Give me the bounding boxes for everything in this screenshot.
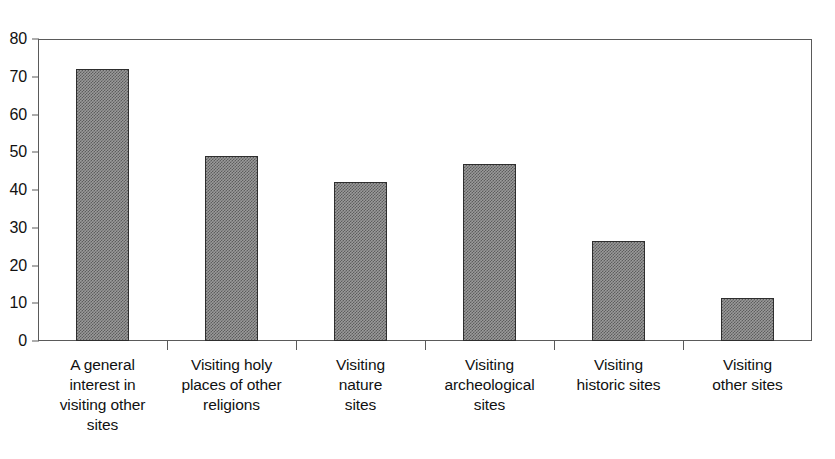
x-axis-category-label-line: Visiting <box>683 355 812 375</box>
x-axis-tick-mark <box>425 341 426 350</box>
x-axis-category-label-line: sites <box>296 395 425 415</box>
bar <box>463 164 516 341</box>
bar <box>721 298 774 341</box>
x-axis-category-label-line: Visiting holy <box>167 355 296 375</box>
bar <box>205 156 258 341</box>
bars-container <box>38 39 812 341</box>
x-axis-category-label: Visiting holyplaces of otherreligions <box>167 355 296 415</box>
y-axis-tick-label: 60 <box>10 106 27 124</box>
x-axis-category-label-line: historic sites <box>554 375 683 395</box>
x-axis-category-label-line: places of other <box>167 375 296 395</box>
x-axis-category-label-line: visiting other <box>38 395 167 415</box>
bar <box>334 182 387 341</box>
x-axis-category-label-line: Visiting <box>296 355 425 375</box>
y-axis-tick-label: 30 <box>10 219 27 237</box>
x-axis-category-label-line: sites <box>38 415 167 435</box>
y-axis: 01020304050607080 <box>0 0 38 459</box>
x-axis-category-label: Visitingarcheologicalsites <box>425 355 554 415</box>
x-axis-category-label-line: interest in <box>38 375 167 395</box>
x-axis-labels: A generalinterest invisiting othersitesV… <box>38 355 812 455</box>
y-axis-tick-label: 50 <box>10 143 27 161</box>
y-axis-tick-label: 20 <box>10 257 27 275</box>
x-axis-tick-mark <box>683 341 684 350</box>
x-axis-tick-mark <box>167 341 168 350</box>
y-axis-tick-label: 70 <box>10 68 27 86</box>
x-axis-category-label: Visitingnaturesites <box>296 355 425 415</box>
y-axis-tick-label: 0 <box>18 332 27 350</box>
bar-chart: 01020304050607080 A generalinterest invi… <box>0 0 835 459</box>
x-axis-ticks <box>38 341 812 351</box>
y-axis-tick-label: 40 <box>10 181 27 199</box>
x-axis-category-label-line: Visiting <box>554 355 683 375</box>
y-axis-tick-label: 80 <box>10 30 27 48</box>
bar <box>76 69 129 341</box>
bar <box>592 241 645 341</box>
x-axis-category-label: Visitingother sites <box>683 355 812 395</box>
x-axis-category-label: Visitinghistoric sites <box>554 355 683 395</box>
x-axis-category-label-line: nature <box>296 375 425 395</box>
x-axis-category-label-line: other sites <box>683 375 812 395</box>
x-axis-category-label-line: Visiting <box>425 355 554 375</box>
x-axis-category-label-line: archeological <box>425 375 554 395</box>
x-axis-category-label-line: A general <box>38 355 167 375</box>
y-axis-tick-label: 10 <box>10 294 27 312</box>
x-axis-category-label-line: religions <box>167 395 296 415</box>
x-axis-category-label: A generalinterest invisiting othersites <box>38 355 167 435</box>
x-axis-tick-mark <box>554 341 555 350</box>
x-axis-category-label-line: sites <box>425 395 554 415</box>
x-axis-tick-mark <box>296 341 297 350</box>
